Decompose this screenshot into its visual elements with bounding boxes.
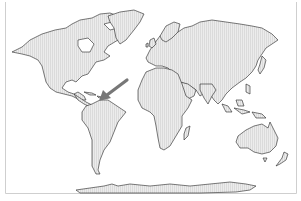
new-zealand xyxy=(276,152,288,166)
antarctica xyxy=(76,182,256,193)
tasmania xyxy=(263,158,267,162)
caribbean-islands xyxy=(84,92,102,98)
pointer-arrow xyxy=(99,80,127,101)
world-map xyxy=(0,0,301,201)
india xyxy=(200,84,216,104)
australia xyxy=(236,122,278,154)
north-america xyxy=(12,13,124,100)
madagascar xyxy=(184,126,190,140)
arrow-shaft xyxy=(107,80,127,95)
south-america xyxy=(82,100,126,174)
